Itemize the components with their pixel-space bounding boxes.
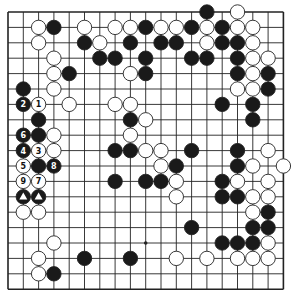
black-stone bbox=[246, 97, 260, 111]
black-stone bbox=[77, 36, 91, 50]
black-stone bbox=[123, 251, 137, 265]
white-stone: 5 bbox=[16, 159, 30, 173]
white-stone bbox=[169, 174, 183, 188]
white-stone bbox=[261, 190, 275, 204]
black-stone bbox=[184, 51, 198, 65]
black-stone bbox=[230, 190, 244, 204]
white-stone bbox=[31, 36, 45, 50]
white-stone bbox=[169, 190, 183, 204]
white-stone bbox=[154, 143, 168, 157]
white-stone bbox=[154, 20, 168, 34]
white-stone bbox=[230, 20, 244, 34]
white-stone bbox=[47, 82, 61, 96]
white-stone bbox=[108, 20, 122, 34]
black-stone bbox=[139, 20, 153, 34]
white-stone bbox=[261, 51, 275, 65]
move-number-label: 9 bbox=[21, 177, 27, 186]
black-stone: 8 bbox=[47, 159, 61, 173]
white-stone bbox=[246, 20, 260, 34]
white-stone bbox=[246, 66, 260, 80]
move-number-label: 6 bbox=[21, 131, 27, 140]
white-stone bbox=[230, 174, 244, 188]
white-stone bbox=[93, 36, 107, 50]
black-stone bbox=[169, 159, 183, 173]
black-stone bbox=[246, 220, 260, 234]
black-stone bbox=[31, 128, 45, 142]
black-stone bbox=[139, 51, 153, 65]
white-stone bbox=[31, 20, 45, 34]
white-stone: 1 bbox=[31, 97, 45, 111]
black-stone bbox=[215, 174, 229, 188]
move-number-label: 1 bbox=[36, 100, 42, 109]
white-stone bbox=[200, 36, 214, 50]
black-stone bbox=[62, 66, 76, 80]
white-stone bbox=[16, 205, 30, 219]
black-stone bbox=[169, 36, 183, 50]
black-stone bbox=[47, 20, 61, 34]
black-stone bbox=[77, 251, 91, 265]
white-stone bbox=[169, 251, 183, 265]
move-number-label: 7 bbox=[36, 177, 42, 186]
white-stone bbox=[123, 20, 137, 34]
white-stone bbox=[77, 20, 91, 34]
white-stone bbox=[246, 82, 260, 96]
black-stone bbox=[47, 267, 61, 281]
white-stone bbox=[139, 143, 153, 157]
star-points bbox=[144, 241, 148, 245]
black-stone bbox=[246, 236, 260, 250]
white-stone bbox=[246, 51, 260, 65]
white-stone bbox=[246, 36, 260, 50]
stones-layer: 216435897 bbox=[16, 5, 290, 281]
white-stone bbox=[123, 66, 137, 80]
black-stone bbox=[215, 190, 229, 204]
move-number-label: 5 bbox=[21, 162, 27, 171]
white-stone: 9 bbox=[16, 174, 30, 188]
white-stone bbox=[261, 251, 275, 265]
black-stone bbox=[154, 174, 168, 188]
black-stone bbox=[215, 236, 229, 250]
white-stone bbox=[261, 236, 275, 250]
black-stone bbox=[230, 143, 244, 157]
black-stone bbox=[215, 20, 229, 34]
black-stone bbox=[246, 113, 260, 127]
black-stone bbox=[230, 51, 244, 65]
white-stone bbox=[31, 251, 45, 265]
move-number-label: 3 bbox=[36, 147, 42, 156]
black-stone bbox=[31, 159, 45, 173]
white-stone bbox=[31, 205, 45, 219]
white-stone bbox=[169, 20, 183, 34]
black-stone bbox=[184, 143, 198, 157]
black-stone bbox=[93, 51, 107, 65]
black-stone bbox=[184, 20, 198, 34]
white-stone bbox=[246, 190, 260, 204]
white-stone bbox=[47, 66, 61, 80]
white-stone bbox=[123, 97, 137, 111]
black-stone bbox=[200, 51, 214, 65]
white-stone: 7 bbox=[31, 174, 45, 188]
black-stone bbox=[261, 66, 275, 80]
black-stone: 4 bbox=[16, 143, 30, 157]
white-stone bbox=[31, 267, 45, 281]
white-stone bbox=[230, 251, 244, 265]
white-stone bbox=[47, 236, 61, 250]
black-stone: 6 bbox=[16, 128, 30, 142]
white-stone bbox=[108, 97, 122, 111]
black-stone bbox=[215, 36, 229, 50]
black-stone bbox=[108, 51, 122, 65]
black-stone bbox=[261, 82, 275, 96]
move-number-label: 2 bbox=[21, 100, 27, 109]
white-stone bbox=[246, 251, 260, 265]
white-stone bbox=[154, 159, 168, 173]
black-stone bbox=[200, 5, 214, 19]
white-stone bbox=[62, 97, 76, 111]
black-stone bbox=[139, 174, 153, 188]
black-stone bbox=[261, 205, 275, 219]
move-number-label: 8 bbox=[51, 162, 57, 171]
black-stone bbox=[154, 36, 168, 50]
black-stone bbox=[215, 97, 229, 111]
white-stone bbox=[246, 205, 260, 219]
black-stone bbox=[230, 66, 244, 80]
black-stone bbox=[16, 190, 30, 204]
black-stone bbox=[123, 36, 137, 50]
white-stone: 3 bbox=[31, 143, 45, 157]
